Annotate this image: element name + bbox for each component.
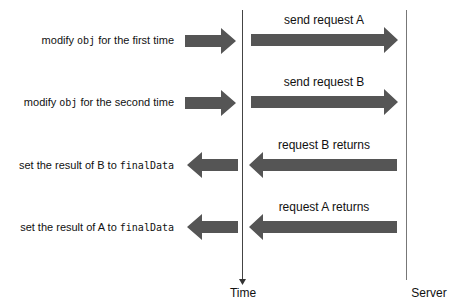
code-finaldata: finalData: [120, 222, 174, 233]
time-axis-arrowhead-icon: [239, 279, 246, 285]
code-finaldata: finalData: [120, 160, 174, 171]
code-obj: obj: [77, 35, 95, 46]
server-lifeline: [406, 10, 407, 280]
client-action-label: modify obj for the second time: [24, 96, 174, 108]
time-axis-label: Time: [218, 286, 268, 300]
server-message-label: request A returns: [250, 200, 398, 214]
time-axis-line: [242, 10, 243, 282]
client-action-label: modify obj for the first time: [42, 34, 174, 46]
client-action-label: set the result of A to finalData: [20, 221, 174, 233]
server-message-label: send request B: [250, 75, 398, 89]
server-message-label: send request A: [250, 13, 398, 27]
client-arrow-left-icon: [187, 152, 238, 178]
client-action-label: set the result of B to finalData: [19, 159, 174, 171]
client-arrow-left-icon: [187, 214, 238, 240]
request-arrow-right-icon: [251, 27, 398, 53]
client-arrow-right-icon: [185, 28, 236, 54]
response-arrow-left-icon: [249, 214, 397, 240]
code-obj: obj: [59, 97, 77, 108]
client-arrow-right-icon: [185, 90, 236, 116]
request-arrow-right-icon: [251, 89, 398, 115]
server-lane-label: Server: [404, 286, 454, 300]
response-arrow-left-icon: [249, 152, 397, 178]
server-message-label: request B returns: [250, 138, 398, 152]
